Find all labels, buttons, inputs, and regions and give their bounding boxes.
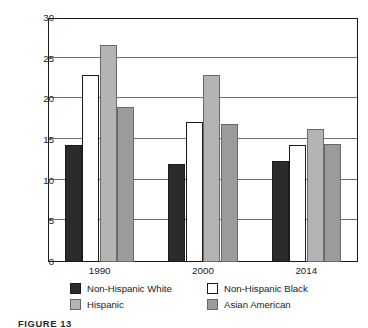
- legend-swatch-non-hispanic-black: [207, 283, 218, 294]
- legend-row-1: HispanicAsian American: [70, 297, 360, 312]
- legend-label-non-hispanic-white: Non-Hispanic White: [87, 283, 172, 294]
- plot-area: [48, 18, 358, 262]
- gridline-5: [49, 219, 357, 220]
- x-tick-label-2014: 2014: [271, 265, 341, 276]
- gridline-10: [49, 179, 357, 180]
- gridline-20: [49, 97, 357, 98]
- y-tick-label-5: 5: [28, 216, 54, 226]
- y-tick-label-10: 10: [28, 176, 54, 186]
- y-tick-label-20: 20: [28, 94, 54, 104]
- y-tick-label-30: 30: [28, 13, 54, 23]
- legend-item-asian-american: Asian American: [207, 297, 291, 312]
- gridline-15: [49, 138, 357, 139]
- legend-row-0: Non-Hispanic WhiteNon-Hispanic Black: [70, 281, 360, 296]
- y-tick-label-25: 25: [28, 54, 54, 64]
- chart-legend: Non-Hispanic WhiteNon-Hispanic BlackHisp…: [70, 281, 360, 315]
- legend-label-non-hispanic-black: Non-Hispanic Black: [224, 283, 308, 294]
- legend-item-non-hispanic-white: Non-Hispanic White: [70, 281, 172, 296]
- legend-item-non-hispanic-black: Non-Hispanic Black: [207, 281, 308, 296]
- legend-label-asian-american: Asian American: [224, 299, 291, 310]
- x-tick-label-2000: 2000: [168, 265, 238, 276]
- legend-item-hispanic: Hispanic: [70, 297, 124, 312]
- x-tick-label-1990: 1990: [65, 265, 135, 276]
- legend-swatch-non-hispanic-white: [70, 283, 81, 294]
- legend-swatch-asian-american: [207, 299, 218, 310]
- figure-container: BIRTH RATE PER 1,000 POPULATION 05101520…: [0, 0, 368, 328]
- legend-swatch-hispanic: [70, 299, 81, 310]
- y-tick-label-15: 15: [28, 135, 54, 145]
- figure-caption: FIGURE 13: [18, 318, 72, 328]
- legend-label-hispanic: Hispanic: [87, 299, 124, 310]
- y-tick-label-0: 0: [28, 257, 54, 267]
- gridline-25: [49, 57, 357, 58]
